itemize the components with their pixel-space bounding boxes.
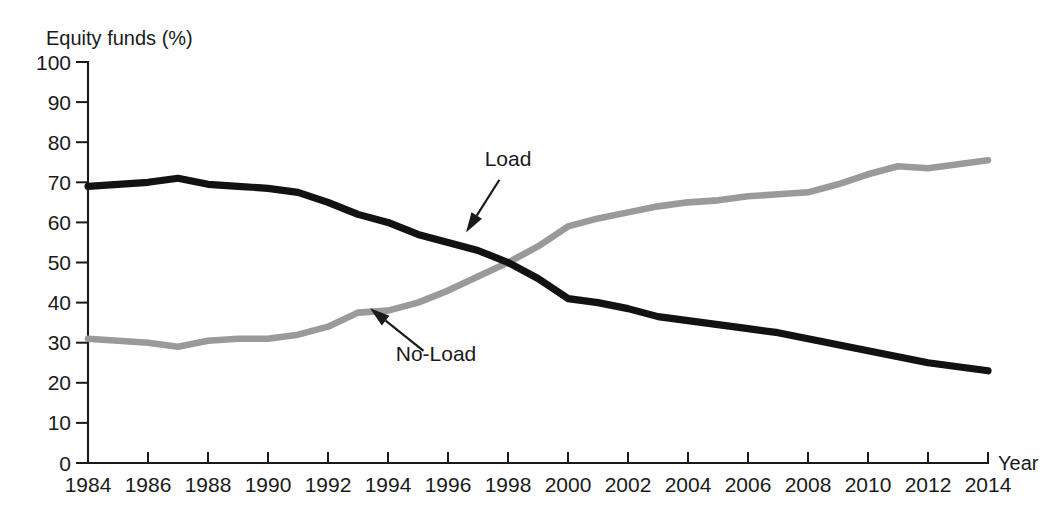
x-tick-label: 2008 — [785, 473, 832, 496]
y-tick-label: 90 — [48, 91, 71, 114]
x-tick-label: 2004 — [665, 473, 712, 496]
annotation-label-no-load: No-Load — [396, 342, 477, 365]
x-tick-label: 1994 — [365, 473, 412, 496]
y-tick-label: 80 — [48, 131, 71, 154]
x-axis-title: Year — [998, 452, 1039, 474]
x-tick-label: 2010 — [845, 473, 892, 496]
x-tick-label: 1992 — [305, 473, 352, 496]
x-tick-label: 2000 — [545, 473, 592, 496]
y-tick-label: 30 — [48, 331, 71, 354]
y-tick-label: 50 — [48, 251, 71, 274]
x-tick-label: 1986 — [125, 473, 172, 496]
y-axis-title: Equity funds (%) — [46, 27, 193, 49]
x-tick-label: 1996 — [425, 473, 472, 496]
x-tick-label: 1984 — [65, 473, 112, 496]
series-annotations: LoadNo-Load — [370, 147, 531, 364]
equity-funds-line-chart: Equity funds (%) 0102030405060708090100 … — [0, 0, 1053, 517]
x-tick-label: 1990 — [245, 473, 292, 496]
y-tick-label: 100 — [36, 51, 71, 74]
x-tick-label: 2002 — [605, 473, 652, 496]
y-axis-ticks: 0102030405060708090100 — [36, 51, 88, 475]
y-tick-label: 20 — [48, 371, 71, 394]
chart-container: Equity funds (%) 0102030405060708090100 … — [0, 0, 1053, 517]
y-tick-label: 10 — [48, 411, 71, 434]
y-tick-label: 70 — [48, 171, 71, 194]
x-tick-label: 1998 — [485, 473, 532, 496]
y-tick-label: 0 — [59, 452, 71, 475]
x-tick-label: 2006 — [725, 473, 772, 496]
x-tick-label: 2012 — [905, 473, 952, 496]
annotation-arrow-head — [466, 212, 482, 232]
y-tick-label: 40 — [48, 291, 71, 314]
x-axis-ticks: 1984198619881990199219941996199820002002… — [65, 452, 1012, 496]
x-tick-label: 2014 — [965, 473, 1012, 496]
annotation-arrow-shaft — [477, 180, 500, 216]
y-tick-label: 60 — [48, 211, 71, 234]
x-tick-label: 1988 — [185, 473, 232, 496]
annotation-label-load: Load — [485, 147, 532, 170]
